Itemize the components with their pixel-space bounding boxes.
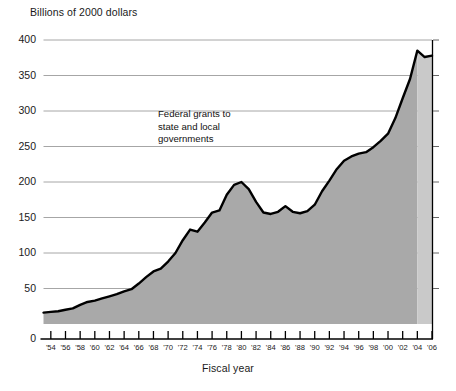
chart-annotation-line: Federal grants to bbox=[158, 108, 278, 121]
y-axis-tick-label: 0 bbox=[2, 332, 36, 344]
y-axis-tick-label: 200 bbox=[2, 175, 36, 187]
chart-container: Billions of 2000 dollars 050100150200250… bbox=[0, 0, 456, 391]
y-axis-tick-label: 150 bbox=[2, 211, 36, 223]
chart-annotation-line: state and local bbox=[158, 121, 278, 134]
y-axis-tick-label: 100 bbox=[2, 246, 36, 258]
y-axis-tick-label: 350 bbox=[2, 69, 36, 81]
area-fill-actual bbox=[44, 51, 418, 324]
y-axis-tick-label: 300 bbox=[2, 104, 36, 116]
y-axis-title: Billions of 2000 dollars bbox=[30, 6, 137, 18]
x-axis-tick-label: '06 bbox=[421, 343, 443, 352]
chart-annotation-line: governments bbox=[158, 133, 278, 146]
y-axis-tick-label: 50 bbox=[2, 282, 36, 294]
y-axis-tick-label: 400 bbox=[2, 33, 36, 45]
chart-annotation: Federal grants tostate and localgovernme… bbox=[158, 108, 278, 146]
chart-plot-area bbox=[0, 0, 456, 391]
area-series bbox=[44, 51, 433, 324]
x-axis-title: Fiscal year bbox=[0, 362, 456, 374]
area-fill-projected bbox=[417, 51, 432, 324]
y-axis-tick-label: 250 bbox=[2, 140, 36, 152]
x-axis-ticks bbox=[51, 331, 432, 339]
